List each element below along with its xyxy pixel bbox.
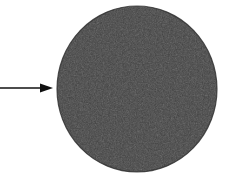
figure-container [0,0,226,185]
figure-canvas [0,0,226,185]
